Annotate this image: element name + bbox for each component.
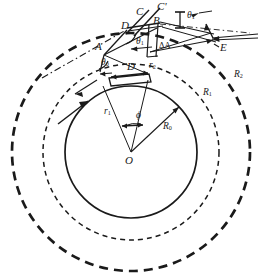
- label-angle-theta1-left: θ1: [136, 37, 144, 47]
- label-point-E: E: [220, 42, 227, 53]
- label-point-B: B: [153, 15, 160, 26]
- label-point-C-prime: C': [157, 1, 167, 12]
- label-radius-r1: r1: [104, 107, 111, 117]
- line-B-drop-left: [147, 24, 149, 57]
- angle-phi-marker: [122, 123, 143, 129]
- label-delta-A: ΔA: [159, 41, 171, 50]
- label-angle-theta0: θ0: [101, 58, 109, 68]
- radius-line-r1: [103, 86, 131, 152]
- label-center-O: O: [125, 155, 133, 166]
- inward-arrow: [75, 80, 97, 97]
- label-radius-R2: R2: [234, 70, 243, 80]
- label-radius-r2: r2: [149, 61, 156, 71]
- point-E-arrow-cluster: [204, 24, 258, 47]
- diagram-canvas: A B C C' D E O D r1 r2 R0 R1 R2 θ0 θ1 θ1…: [0, 0, 269, 275]
- label-radius-R1: R1: [203, 88, 212, 98]
- label-segment-D: D: [127, 61, 135, 72]
- label-angle-theta1-right: θ1: [187, 11, 195, 21]
- label-angle-phi: ϕ: [136, 111, 141, 121]
- diagram-vector-layer: [0, 0, 269, 275]
- tangent-dashdot-line: [42, 30, 126, 78]
- label-point-C: C: [136, 6, 143, 17]
- label-radius-R0: R0: [163, 122, 172, 132]
- label-point-A: A: [95, 41, 102, 52]
- label-point-D-upper: D: [121, 20, 129, 31]
